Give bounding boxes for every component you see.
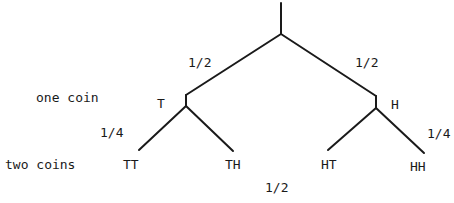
edge-T-to-TH	[186, 106, 233, 151]
row-label-one-coin: one coin	[36, 91, 99, 104]
edge-H-to-HT	[328, 108, 376, 150]
leaf-label-HH: HH	[410, 160, 426, 173]
prob-label-left-l2: 1/4	[100, 126, 123, 139]
edge-T-to-TT	[139, 106, 186, 150]
node-label-T: T	[157, 97, 165, 110]
node-label-H: H	[391, 98, 399, 111]
prob-label-left-l1: 1/2	[188, 56, 211, 69]
prob-label-right-l2: 1/4	[427, 127, 450, 140]
prob-label-bottom: 1/2	[265, 181, 288, 194]
probability-tree-diagram: 1/2 1/2 one coin T H 1/4 1/4 two coins T…	[0, 0, 454, 203]
edge-H-to-HH	[376, 108, 424, 153]
leaf-label-TH: TH	[225, 158, 241, 171]
leaf-label-HT: HT	[321, 158, 337, 171]
leaf-label-TT: TT	[123, 158, 139, 171]
row-label-two-coins: two coins	[5, 158, 75, 171]
prob-label-right-l1: 1/2	[355, 56, 378, 69]
